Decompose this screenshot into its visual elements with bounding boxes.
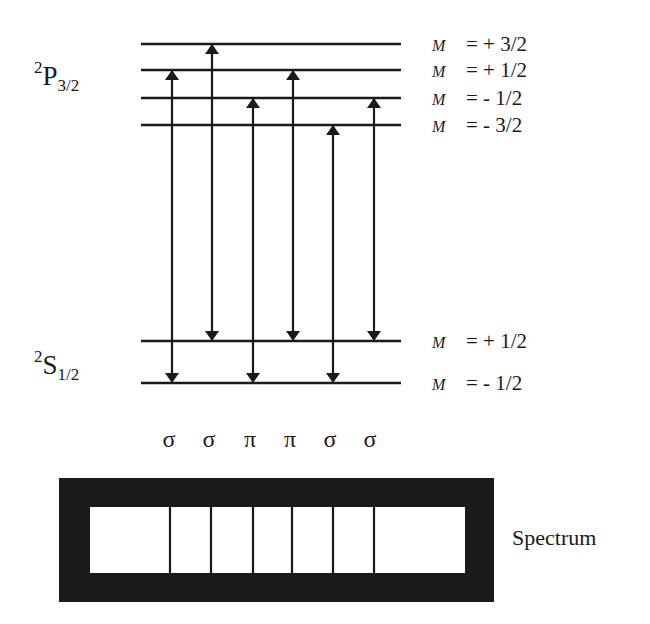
spectrum-window bbox=[90, 507, 465, 573]
upper-level-label-0: M= + 3/2 bbox=[432, 34, 527, 55]
spectrum-box bbox=[59, 478, 494, 602]
polarization-label-3: π bbox=[278, 427, 302, 451]
lower-level-label-0: M= + 1/2 bbox=[432, 331, 527, 352]
upper-level-label-3: M= - 3/2 bbox=[432, 115, 522, 136]
polarization-label-1: σ bbox=[197, 427, 221, 451]
lower-level-label-1: M= - 1/2 bbox=[432, 373, 522, 394]
upper-term-label: 2P3/2 bbox=[34, 63, 79, 90]
polarization-label-0: σ bbox=[157, 427, 181, 451]
lower-term-multiplicity: 2 bbox=[34, 347, 43, 366]
polarization-label-2: π bbox=[238, 427, 262, 451]
energy-levels bbox=[141, 44, 401, 383]
polarization-label-4: σ bbox=[318, 427, 342, 451]
lower-term-j: 1/2 bbox=[58, 365, 80, 384]
upper-level-label-2: M= - 1/2 bbox=[432, 88, 522, 109]
upper-term-multiplicity: 2 bbox=[34, 58, 43, 77]
transition-arrows bbox=[172, 44, 374, 383]
lower-term-letter: S bbox=[43, 350, 58, 380]
upper-term-letter: P bbox=[43, 61, 58, 91]
upper-term-j: 3/2 bbox=[58, 76, 80, 95]
spectrum-label: Spectrum bbox=[512, 527, 596, 549]
upper-level-label-1: M= + 1/2 bbox=[432, 60, 527, 81]
polarization-label-5: σ bbox=[358, 427, 382, 451]
lower-term-label: 2S1/2 bbox=[34, 352, 79, 379]
